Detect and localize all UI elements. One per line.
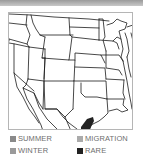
legend-label: RARE	[85, 146, 106, 156]
legend-label: MIGRATION	[85, 134, 128, 144]
rare-swatch-icon	[77, 148, 83, 154]
top-bar	[0, 0, 143, 6]
summer-swatch-icon	[10, 136, 16, 142]
legend-label: WINTER	[18, 146, 48, 156]
legend-item-summer: SUMMER	[10, 134, 77, 144]
legend-item-rare: RARE	[77, 146, 140, 156]
legend-item-winter: WINTER	[10, 146, 77, 156]
legend-label: SUMMER	[18, 134, 52, 144]
rare-range-area	[9, 13, 133, 130]
range-map	[8, 12, 133, 130]
migration-swatch-icon	[77, 136, 83, 142]
legend-item-migration: MIGRATION	[77, 134, 140, 144]
map-legend: SUMMER MIGRATION WINTER RARE	[10, 134, 140, 156]
winter-swatch-icon	[10, 148, 16, 154]
